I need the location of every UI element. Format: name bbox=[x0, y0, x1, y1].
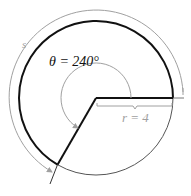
angle-label: θ = 240° bbox=[49, 54, 99, 69]
radius-brace bbox=[97, 103, 172, 109]
sector-arc bbox=[19, 21, 173, 165]
terminal-ray-extension bbox=[50, 165, 58, 184]
radius-label: r = 4 bbox=[122, 110, 149, 125]
terminal-ray bbox=[58, 98, 97, 165]
arc-length-label: s bbox=[22, 38, 26, 50]
arc-length-arrow bbox=[9, 10, 183, 172]
angle-arc bbox=[61, 63, 131, 128]
sector-diagram: θ = 240° r = 4 s bbox=[0, 0, 191, 196]
